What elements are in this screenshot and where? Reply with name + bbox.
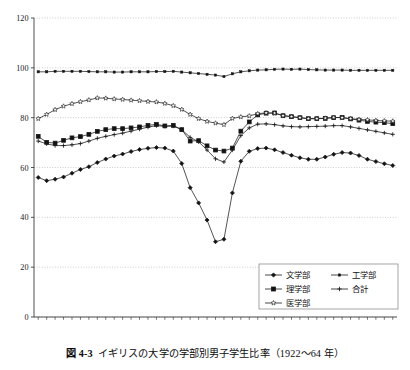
data-point-marker [46, 71, 48, 73]
y-tick-label: 20 [20, 263, 28, 272]
data-point-marker [130, 71, 132, 73]
data-point-marker [189, 72, 191, 74]
data-point-marker [257, 69, 259, 71]
legend-item-label: 合計 [352, 284, 368, 294]
data-point-marker [188, 139, 192, 143]
data-point-marker [122, 71, 124, 73]
data-point-marker [316, 69, 318, 71]
figure-caption: 図 4-3 イギリスの大学の学部別男子学生比率（1922〜64 年） [0, 345, 410, 360]
data-point-marker [87, 132, 91, 136]
y-tick-label: 120 [16, 14, 28, 23]
data-point-marker [349, 69, 351, 71]
data-point-marker [383, 69, 385, 71]
data-point-marker [333, 69, 335, 71]
data-point-marker [307, 68, 309, 70]
data-point-marker [265, 69, 267, 71]
data-point-marker [181, 71, 183, 73]
data-point-marker [70, 136, 74, 140]
data-point-marker [172, 70, 174, 72]
data-point-marker [222, 149, 226, 153]
data-point-marker [231, 73, 233, 75]
data-point-marker [338, 274, 340, 276]
legend-item-label: 医学部 [286, 298, 310, 308]
data-point-marker [198, 72, 200, 74]
data-point-marker [155, 70, 157, 72]
data-point-marker [36, 134, 40, 138]
data-point-marker [54, 70, 56, 72]
figure-container: 020406080100120 192219241926192819301932… [0, 0, 410, 370]
legend-item-label: 理学部 [286, 284, 310, 294]
data-point-marker [324, 69, 326, 71]
data-point-marker [248, 70, 250, 72]
legend-box [259, 264, 398, 309]
data-point-marker [341, 69, 343, 71]
line-chart: 020406080100120 192219241926192819301932… [0, 0, 410, 345]
data-point-marker [240, 71, 242, 73]
data-point-marker [96, 71, 98, 73]
y-tick-label: 80 [20, 114, 28, 123]
data-point-marker [147, 71, 149, 73]
data-point-marker [214, 148, 218, 152]
data-point-marker [273, 68, 275, 70]
data-point-marker [79, 135, 83, 139]
data-point-marker [121, 127, 125, 131]
data-point-marker [95, 129, 99, 133]
figure-caption-number: 図 4-3 [66, 348, 93, 359]
data-point-marker [206, 73, 208, 75]
data-point-marker [62, 70, 64, 72]
data-point-marker [223, 75, 225, 77]
data-point-marker [358, 69, 360, 71]
data-point-marker [392, 69, 394, 71]
data-point-marker [366, 69, 368, 71]
data-point-marker [113, 71, 115, 73]
data-point-marker [239, 129, 243, 133]
y-tick-label: 40 [20, 213, 28, 222]
data-point-marker [214, 74, 216, 76]
data-point-marker [62, 138, 66, 142]
data-point-marker [290, 68, 292, 70]
y-tick-label: 60 [20, 164, 28, 173]
data-point-marker [205, 144, 209, 148]
data-point-marker [105, 71, 107, 73]
data-point-marker [88, 70, 90, 72]
figure-caption-text: イギリスの大学の学部別男子学生比率（1922〜64 年） [98, 348, 344, 359]
chart-legend: 文学部工学部理学部合計医学部 [259, 264, 398, 309]
data-point-marker [282, 68, 284, 70]
data-point-marker [112, 127, 116, 131]
data-point-marker [37, 71, 39, 73]
legend-item-label: 文学部 [286, 270, 310, 280]
data-point-marker [299, 68, 301, 70]
data-point-marker [71, 70, 73, 72]
legend-item-label: 工学部 [352, 270, 376, 280]
data-point-marker [272, 287, 276, 291]
data-point-marker [104, 128, 108, 132]
data-point-marker [79, 70, 81, 72]
data-point-marker [375, 69, 377, 71]
data-point-marker [247, 120, 251, 124]
y-tick-label: 100 [16, 64, 28, 73]
y-tick-label: 0 [24, 313, 28, 322]
data-point-marker [164, 70, 166, 72]
data-point-marker [138, 71, 140, 73]
